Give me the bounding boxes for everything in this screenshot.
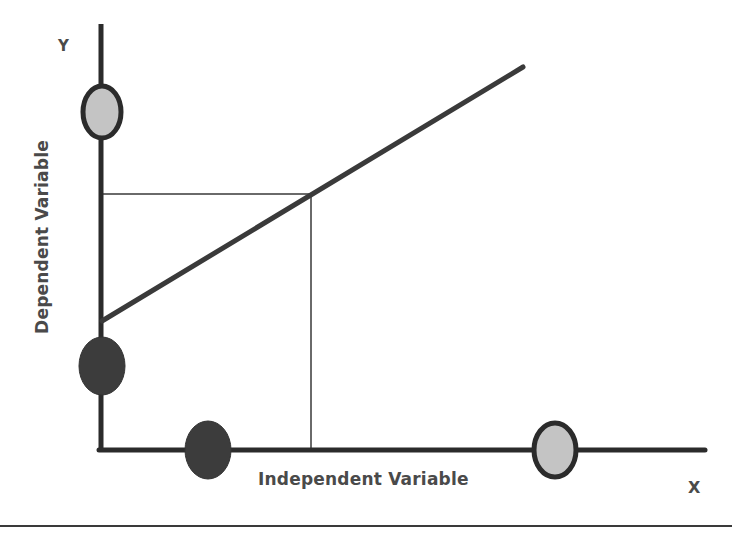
x-axis-letter: X [688,478,700,497]
y-axis-light-marker [83,86,121,138]
x-axis-light-marker [534,423,576,477]
y-axis-title: Dependent Variable [32,140,52,334]
y-axis-letter: Y [58,37,69,55]
y-axis-dark-marker [79,337,125,395]
bottom-divider [0,525,732,527]
linear-relationship-diagram [0,0,732,534]
x-axis-dark-marker [185,421,231,479]
x-axis-title: Independent Variable [258,469,469,489]
